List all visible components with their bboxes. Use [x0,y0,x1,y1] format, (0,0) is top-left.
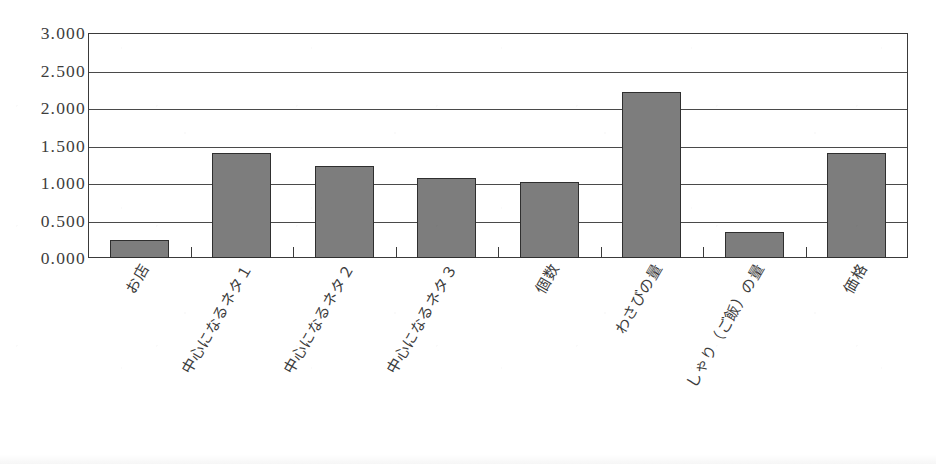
x-tick-label: しゃり（ご飯）の量 [685,262,768,390]
x-axis-tick [806,247,807,258]
x-tick-label: 中心になるネタ３ [385,262,460,377]
bar [315,166,374,258]
x-axis-tick [191,247,192,258]
x-tick-label: 個数 [534,262,562,296]
y-axis: 3.000 2.500 2.000 1.500 1.000 0.500 0.00… [0,33,86,258]
x-tick-label: 中心になるネタ１ [180,262,255,377]
bar [725,232,784,258]
x-axis-tick [396,247,397,258]
x-tick-label: 価格 [841,262,869,296]
bar [827,153,886,258]
bar [110,240,169,258]
bar [417,178,476,258]
x-axis-tick [293,247,294,258]
y-tick-label: 2.500 [8,60,86,81]
x-axis-tick [703,247,704,258]
x-axis-labels: お店 中心になるネタ１ 中心になるネタ２ 中心になるネタ３ 個数 わさびの量 し… [88,262,908,462]
x-axis-tick [498,247,499,258]
y-tick-label: 1.500 [8,135,86,156]
x-tick-label: お店 [124,262,152,296]
x-tick-label: わさびの量 [613,262,665,337]
y-tick-label: 0.000 [8,248,86,269]
x-tick-label: 中心になるネタ２ [282,262,357,377]
y-tick-label: 1.000 [8,173,86,194]
bar [212,153,271,258]
bar [622,92,681,258]
y-tick-label: 0.500 [8,210,86,231]
x-axis-tick [601,247,602,258]
y-tick-label: 2.000 [8,98,86,119]
bars-group [88,33,908,258]
y-tick-label: 3.000 [8,23,86,44]
bar [520,182,579,259]
bar-chart: 3.000 2.500 2.000 1.500 1.000 0.500 0.00… [0,0,936,464]
